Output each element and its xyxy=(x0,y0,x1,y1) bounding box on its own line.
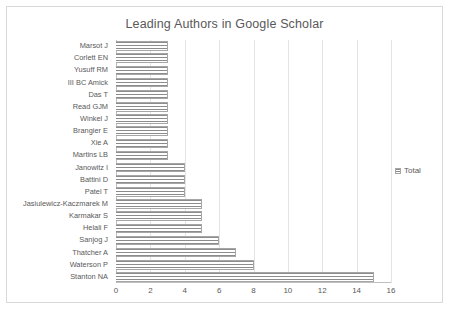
y-axis-label: Corlett EN xyxy=(74,54,108,61)
bar[interactable] xyxy=(116,175,185,184)
bar[interactable] xyxy=(116,163,185,172)
bar[interactable] xyxy=(116,66,168,75)
bar[interactable] xyxy=(116,139,168,148)
bar-row xyxy=(116,211,391,220)
bar[interactable] xyxy=(116,260,254,269)
y-axis-label: Janowitz I xyxy=(75,164,108,171)
bar-row xyxy=(116,260,391,269)
y-axis-label: Winkel J xyxy=(80,115,108,122)
bar[interactable] xyxy=(116,187,185,196)
chart-title: Leading Authors in Google Scholar xyxy=(7,17,442,31)
bar[interactable] xyxy=(116,151,168,160)
x-axis-tick-label: 2 xyxy=(148,286,152,295)
x-axis-tick-label: 12 xyxy=(318,286,327,295)
y-axis-label: Thatcher A xyxy=(72,249,108,256)
bar[interactable] xyxy=(116,272,374,281)
bar-row xyxy=(116,139,391,148)
bar-row xyxy=(116,224,391,233)
bar-row xyxy=(116,78,391,87)
bar-row xyxy=(116,248,391,257)
y-axis-label: Yusuff RM xyxy=(74,66,108,73)
y-axis-label: Xie A xyxy=(91,139,108,146)
bar-row xyxy=(116,114,391,123)
y-axis-label: Stanton NA xyxy=(70,273,108,280)
bar[interactable] xyxy=(116,53,168,62)
bar[interactable] xyxy=(116,248,236,257)
legend: Total xyxy=(395,166,421,175)
y-axis-label: Battini D xyxy=(80,176,108,183)
chart-container: Leading Authors in Google Scholar Marsot… xyxy=(6,6,443,303)
y-axis-label: Patel T xyxy=(85,188,108,195)
bar-series-total xyxy=(116,40,391,283)
y-axis-label: Sanjog J xyxy=(79,236,108,243)
x-axis-tick-label: 4 xyxy=(183,286,187,295)
x-axis-tick-labels: 0246810121416 xyxy=(116,286,391,300)
x-axis-tick-label: 6 xyxy=(217,286,221,295)
bar-row xyxy=(116,272,391,281)
bar[interactable] xyxy=(116,211,202,220)
bar-row xyxy=(116,90,391,99)
y-axis-label: Das T xyxy=(88,91,108,98)
bar[interactable] xyxy=(116,114,168,123)
x-axis-line xyxy=(116,282,391,283)
bar-row xyxy=(116,163,391,172)
x-axis-tick-label: 0 xyxy=(114,286,118,295)
bar-row xyxy=(116,66,391,75)
bar-row xyxy=(116,151,391,160)
y-axis-label: Waterson P xyxy=(70,261,108,268)
bar[interactable] xyxy=(116,102,168,111)
bar[interactable] xyxy=(116,90,168,99)
bar-row xyxy=(116,199,391,208)
x-axis-tick-label: 8 xyxy=(251,286,255,295)
y-axis-label: Read GJM xyxy=(73,103,108,110)
y-axis-label: Karmakar S xyxy=(69,212,108,219)
bar[interactable] xyxy=(116,41,168,50)
y-axis-label: Martins LB xyxy=(73,151,108,158)
x-axis-tick-label: 16 xyxy=(387,286,396,295)
bar-row xyxy=(116,41,391,50)
y-axis-category-labels: Marsot JCorlett ENYusuff RMIII BC AmickD… xyxy=(7,40,112,283)
bar[interactable] xyxy=(116,126,168,135)
bar-row xyxy=(116,175,391,184)
y-axis-label: III BC Amick xyxy=(68,79,108,86)
legend-entry-label: Total xyxy=(404,166,421,175)
y-axis-label: Brangier E xyxy=(73,127,108,134)
y-axis-label: Helali F xyxy=(83,224,108,231)
x-axis-tick-label: 14 xyxy=(352,286,361,295)
x-axis-tick-label: 10 xyxy=(283,286,292,295)
bar-row xyxy=(116,187,391,196)
bar-row xyxy=(116,236,391,245)
bar-row xyxy=(116,53,391,62)
bar[interactable] xyxy=(116,224,202,233)
bar-row xyxy=(116,102,391,111)
y-axis-label: Marsot J xyxy=(80,42,108,49)
legend-swatch-icon xyxy=(395,168,401,174)
plot-area xyxy=(116,40,391,283)
bar[interactable] xyxy=(116,199,202,208)
y-axis-label: Jasiulewicz-Kaczmarek M xyxy=(23,200,108,207)
bar[interactable] xyxy=(116,78,168,87)
bar[interactable] xyxy=(116,236,219,245)
bar-row xyxy=(116,126,391,135)
gridline-16 xyxy=(391,40,392,283)
